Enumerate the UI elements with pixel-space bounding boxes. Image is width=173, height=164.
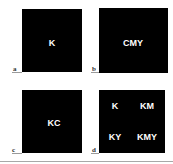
ink-label-k: K — [112, 102, 119, 111]
panel-c: KC — [22, 90, 82, 153]
ink-label-ky: KY — [109, 133, 122, 142]
panel-c-baseline — [12, 153, 22, 154]
panel-d: K KM KY KMY — [99, 90, 165, 153]
ink-label-cmy: CMY — [123, 39, 143, 48]
ink-label-kc: KC — [48, 119, 61, 128]
panel-b: CMY — [99, 8, 168, 73]
ink-label-kmy: KMY — [137, 133, 157, 142]
panel-a-baseline — [12, 72, 22, 73]
panel-a: K — [22, 9, 82, 72]
panel-b-baseline — [91, 72, 99, 73]
figure-bottom-rule — [0, 161, 173, 162]
ink-label-km: KM — [140, 102, 154, 111]
panel-d-baseline — [91, 153, 99, 154]
ink-label-k: K — [49, 39, 56, 48]
